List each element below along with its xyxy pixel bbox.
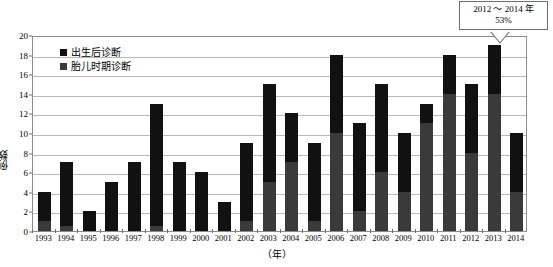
x-axis-tick-label: 1994 bbox=[57, 233, 74, 243]
x-axis-tick-mark bbox=[392, 229, 393, 233]
bar-segment-postnatal bbox=[465, 84, 478, 153]
x-axis-tick-label: 2007 bbox=[350, 233, 367, 243]
legend-label: 出生后诊断 bbox=[71, 47, 121, 58]
x-axis-tick-label: 1995 bbox=[80, 233, 97, 243]
bar-segment-postnatal bbox=[150, 104, 163, 227]
bar-column bbox=[218, 35, 231, 231]
bar-segment-fetal bbox=[398, 192, 411, 231]
bar-column bbox=[465, 35, 478, 231]
x-axis-tick-mark bbox=[505, 229, 506, 233]
y-axis-tick-label: 14 bbox=[19, 90, 28, 99]
bar-segment-fetal bbox=[308, 221, 321, 231]
bar-segment-fetal bbox=[465, 153, 478, 231]
legend-swatch-icon bbox=[60, 63, 67, 70]
bar-segment-fetal bbox=[60, 226, 73, 231]
x-axis-tick-label: 2012 bbox=[462, 233, 479, 243]
bar-segment-fetal bbox=[285, 162, 298, 231]
x-axis-tick-label: 2009 bbox=[395, 233, 412, 243]
bar-segment-fetal bbox=[150, 226, 163, 231]
bar-column bbox=[398, 35, 411, 231]
bar-segment-postnatal bbox=[353, 123, 366, 211]
bar-segment-postnatal bbox=[398, 133, 411, 192]
bar-column bbox=[285, 35, 298, 231]
x-axis-tick-label: 2003 bbox=[260, 233, 277, 243]
x-axis-title: （年） bbox=[0, 246, 553, 261]
y-axis-title: 例数 bbox=[0, 150, 11, 170]
bar-segment-postnatal bbox=[128, 162, 141, 231]
legend-item-postnatal: 出生后诊断 bbox=[60, 47, 131, 58]
bar-segment-postnatal bbox=[308, 143, 321, 221]
bar-chart: 例数 02468101214161820 1993199419951996199… bbox=[0, 0, 553, 267]
rate-callout: 2012 ～ 2014 年 53% bbox=[459, 1, 548, 30]
x-axis-tick-mark bbox=[460, 229, 461, 233]
y-axis-tick-label: 18 bbox=[19, 51, 28, 60]
y-axis-tick-label: 8 bbox=[24, 149, 29, 158]
bar-column bbox=[488, 35, 501, 231]
y-axis-tick-label: 10 bbox=[19, 130, 28, 139]
legend: 出生后诊断 胎儿时期诊断 bbox=[60, 47, 131, 72]
legend-item-fetal: 胎儿时期诊断 bbox=[60, 61, 131, 72]
bar-segment-postnatal bbox=[83, 211, 96, 231]
bar-segment-postnatal bbox=[510, 133, 523, 192]
bar-segment-postnatal bbox=[443, 55, 456, 94]
bar-segment-postnatal bbox=[263, 84, 276, 182]
x-axis-tick-mark bbox=[280, 229, 281, 233]
bar-segment-postnatal bbox=[195, 172, 208, 231]
x-axis-tick-mark bbox=[55, 229, 56, 233]
x-axis-tick-mark bbox=[370, 229, 371, 233]
x-axis-tick-label: 1999 bbox=[170, 233, 187, 243]
bar-segment-postnatal bbox=[105, 182, 118, 231]
bar-segment-fetal bbox=[38, 221, 51, 231]
callout-pointer-icon bbox=[489, 31, 511, 44]
bar-column bbox=[375, 35, 388, 231]
bar-column bbox=[443, 35, 456, 231]
y-axis-tick-label: 12 bbox=[19, 110, 28, 119]
y-axis-tick-label: 20 bbox=[19, 32, 28, 41]
bar-segment-fetal bbox=[443, 94, 456, 231]
bar-segment-fetal bbox=[420, 123, 433, 231]
bar-column bbox=[38, 35, 51, 231]
bar-column bbox=[353, 35, 366, 231]
x-axis-tick-label: 2013 bbox=[485, 233, 502, 243]
bar-segment-postnatal bbox=[488, 45, 501, 94]
callout-percent: 53% bbox=[460, 15, 547, 26]
bar-segment-fetal bbox=[330, 133, 343, 231]
x-axis-tick-mark bbox=[167, 229, 168, 233]
x-axis-tick-mark bbox=[122, 229, 123, 233]
bar-column bbox=[150, 35, 163, 231]
bar-column bbox=[240, 35, 253, 231]
x-axis: 1993199419951996199719981999200020012002… bbox=[32, 233, 527, 247]
bar-segment-fetal bbox=[263, 182, 276, 231]
x-axis-tick-mark bbox=[257, 229, 258, 233]
bar-column bbox=[263, 35, 276, 231]
x-axis-tick-label: 2006 bbox=[327, 233, 344, 243]
y-axis-tick-label: 4 bbox=[24, 188, 29, 197]
x-axis-tick-mark bbox=[190, 229, 191, 233]
x-axis-tick-label: 2011 bbox=[440, 233, 457, 243]
x-axis-tick-mark bbox=[347, 229, 348, 233]
bar-segment-postnatal bbox=[218, 202, 231, 231]
bar-column bbox=[308, 35, 321, 231]
x-axis-tick-mark bbox=[100, 229, 101, 233]
x-axis-tick-mark bbox=[32, 229, 33, 233]
legend-label: 胎儿时期诊断 bbox=[71, 61, 131, 72]
x-axis-tick-label: 2004 bbox=[282, 233, 299, 243]
x-axis-tick-label: 2000 bbox=[192, 233, 209, 243]
callout-period: 2012 ～ 2014 年 bbox=[460, 4, 547, 15]
bar-segment-postnatal bbox=[60, 162, 73, 226]
bar-column bbox=[173, 35, 186, 231]
x-axis-tick-mark bbox=[235, 229, 236, 233]
bar-segment-fetal bbox=[488, 94, 501, 231]
bar-segment-postnatal bbox=[38, 192, 51, 221]
bar-segment-fetal bbox=[240, 221, 253, 231]
bar-segment-postnatal bbox=[375, 84, 388, 172]
x-axis-tick-label: 2001 bbox=[215, 233, 232, 243]
x-axis-tick-label: 1997 bbox=[125, 233, 142, 243]
x-axis-tick-mark bbox=[437, 229, 438, 233]
x-axis-tick-label: 2005 bbox=[305, 233, 322, 243]
bar-segment-postnatal bbox=[173, 162, 186, 231]
x-axis-tick-mark bbox=[415, 229, 416, 233]
legend-swatch-icon bbox=[60, 49, 67, 56]
y-axis-tick-label: 6 bbox=[24, 169, 29, 178]
x-axis-tick-mark bbox=[325, 229, 326, 233]
